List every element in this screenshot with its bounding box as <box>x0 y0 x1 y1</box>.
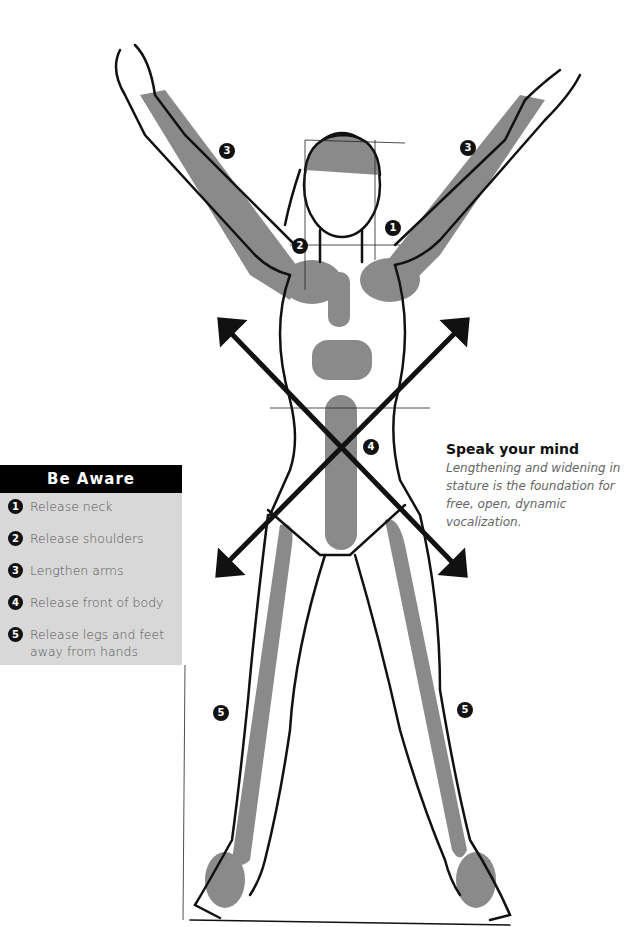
marker-leg-right: 5 <box>457 702 473 718</box>
speak-your-mind-caption: Speak your mind Lengthening and widening… <box>446 441 631 531</box>
number-badge-icon: 2 <box>8 531 23 546</box>
be-aware-item-label: Release legs and feet away from hands <box>30 626 182 660</box>
marker-leg-left: 5 <box>213 705 229 721</box>
marker-shoulders: 2 <box>292 238 308 254</box>
be-aware-item: 4 Release front of body <box>8 594 182 626</box>
be-aware-item-label: Release neck <box>30 498 113 515</box>
caption-body: Lengthening and widening in stature is t… <box>446 459 631 531</box>
be-aware-list: 1 Release neck 2 Release shoulders 3 Len… <box>0 493 182 666</box>
be-aware-title: Be Aware <box>0 465 182 493</box>
marker-arm-right: 3 <box>460 140 476 156</box>
marker-front-body: 4 <box>363 439 379 455</box>
be-aware-item-label: Lengthen arms <box>30 562 124 579</box>
be-aware-item: 5 Release legs and feet away from hands <box>8 626 182 666</box>
number-badge-icon: 3 <box>8 563 23 578</box>
caption-title: Speak your mind <box>446 441 631 457</box>
be-aware-item: 1 Release neck <box>8 498 182 530</box>
be-aware-item: 2 Release shoulders <box>8 530 182 562</box>
number-badge-icon: 4 <box>8 595 23 610</box>
be-aware-item: 3 Lengthen arms <box>8 562 182 594</box>
number-badge-icon: 1 <box>8 499 23 514</box>
be-aware-item-label: Release shoulders <box>30 530 144 547</box>
be-aware-item-label: Release front of body <box>30 594 163 611</box>
marker-arm-left: 3 <box>219 143 235 159</box>
be-aware-panel: Be Aware 1 Release neck 2 Release should… <box>0 465 182 665</box>
marker-neck: 1 <box>385 220 401 236</box>
number-badge-icon: 5 <box>8 627 23 642</box>
